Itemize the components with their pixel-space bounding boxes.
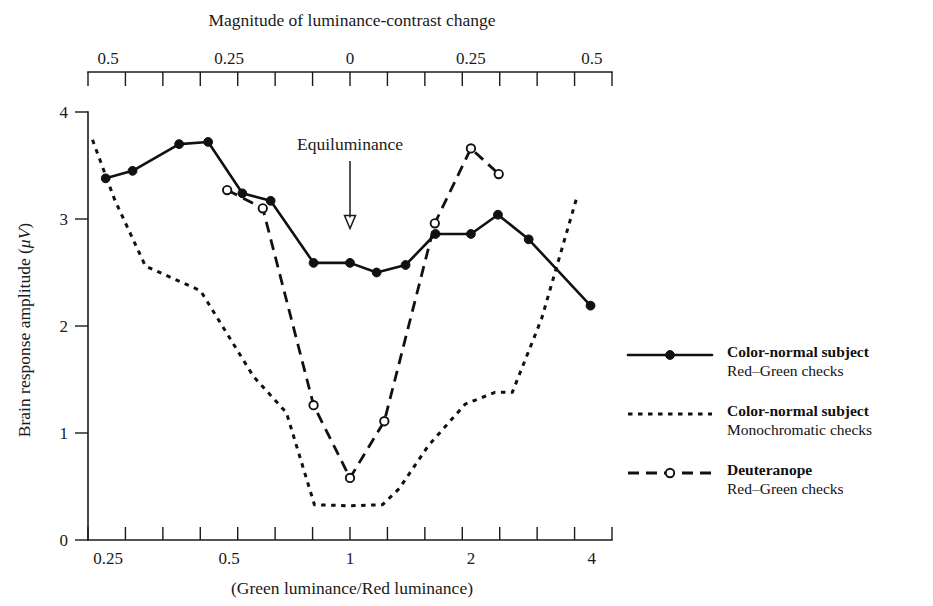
legend-title: Deuteranope bbox=[727, 461, 812, 478]
y-axis: 01234 bbox=[60, 103, 89, 550]
x-axis: 0.250.5124 bbox=[88, 527, 612, 568]
data-point bbox=[128, 166, 137, 175]
top-axis-title: Magnitude of luminance-contrast change bbox=[208, 10, 495, 30]
data-point bbox=[401, 261, 410, 270]
data-point bbox=[494, 210, 503, 219]
legend-subtitle: Monochromatic checks bbox=[727, 421, 872, 438]
data-point bbox=[309, 258, 318, 267]
y-axis-tick-label: 0 bbox=[60, 531, 69, 550]
data-point bbox=[175, 140, 184, 149]
data-point bbox=[346, 474, 354, 482]
data-point bbox=[266, 196, 275, 205]
x-axis-tick-label: 2 bbox=[467, 549, 476, 568]
legend-title: Color-normal subject bbox=[727, 343, 870, 360]
svg-text:Brain response amplitude (μV): Brain response amplitude (μV) bbox=[14, 223, 34, 438]
figure-container: Magnitude of luminance-contrast change 0… bbox=[0, 0, 933, 606]
data-point bbox=[346, 258, 355, 267]
data-point bbox=[223, 186, 231, 194]
y-axis-tick-label: 1 bbox=[60, 424, 69, 443]
data-point bbox=[238, 189, 247, 198]
data-point bbox=[467, 144, 475, 152]
y-axis-units: μV bbox=[14, 226, 34, 249]
chart-svg: Magnitude of luminance-contrast change 0… bbox=[0, 0, 933, 606]
data-point bbox=[380, 417, 388, 425]
data-point bbox=[372, 268, 381, 277]
top-axis-tick-label: 0.25 bbox=[214, 49, 244, 68]
data-point bbox=[524, 235, 533, 244]
legend-subtitle: Red–Green checks bbox=[727, 480, 844, 497]
data-point bbox=[204, 138, 213, 147]
legend-entry-2[interactable]: Color-normal subjectMonochromatic checks bbox=[628, 402, 872, 438]
top-axis-tick-label: 0.25 bbox=[456, 49, 486, 68]
x-axis-tick-label: 0.5 bbox=[218, 549, 239, 568]
legend-title: Color-normal subject bbox=[727, 402, 870, 419]
series-line-2 bbox=[92, 140, 577, 506]
chart-legend: Color-normal subjectRed–Green checksColo… bbox=[628, 343, 872, 497]
data-point bbox=[259, 204, 267, 212]
data-point bbox=[467, 230, 476, 239]
top-axis-tick-label: 0 bbox=[346, 49, 355, 68]
legend-entry-1[interactable]: Color-normal subjectRed–Green checks bbox=[628, 343, 870, 379]
legend-entry-3[interactable]: DeuteranopeRed–Green checks bbox=[628, 461, 844, 497]
series-2 bbox=[92, 140, 577, 506]
x-axis-tick-label: 1 bbox=[346, 549, 355, 568]
data-point bbox=[586, 301, 595, 310]
y-axis-tick-label: 4 bbox=[60, 103, 69, 122]
legend-subtitle: Red–Green checks bbox=[727, 362, 844, 379]
series-3 bbox=[223, 144, 503, 482]
x-axis-title: (Green luminance/Red luminance) bbox=[231, 578, 473, 598]
y-axis-tick-label: 2 bbox=[60, 317, 69, 336]
equiluminance-annotation: Equiluminance bbox=[297, 134, 403, 229]
legend-marker bbox=[666, 469, 674, 477]
x-axis-tick-label: 0.25 bbox=[93, 549, 123, 568]
y-axis-tick-label: 3 bbox=[60, 210, 69, 229]
data-point bbox=[431, 219, 439, 227]
legend-marker bbox=[666, 351, 675, 360]
top-axis-tick-label: 0.5 bbox=[98, 49, 119, 68]
x-axis-tick-label: 4 bbox=[588, 549, 597, 568]
top-axis: 0.50.2500.250.5 bbox=[88, 49, 612, 86]
data-point bbox=[309, 401, 317, 409]
y-axis-title: Brain response amplitude (μV) bbox=[14, 223, 34, 438]
data-series-layer bbox=[92, 138, 594, 506]
data-point bbox=[495, 170, 503, 178]
annotation-label: Equiluminance bbox=[297, 134, 403, 154]
y-axis-title-text: Brain response amplitude bbox=[14, 258, 34, 437]
top-axis-tick-label: 0.5 bbox=[581, 49, 602, 68]
